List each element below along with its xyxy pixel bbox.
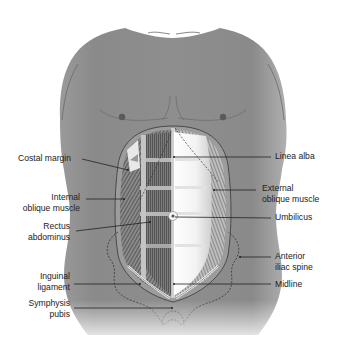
nipple-right xyxy=(220,114,226,120)
label-line: Symphysis xyxy=(28,298,70,309)
nipple-left xyxy=(119,114,125,120)
label-umbilicus: Umbilicus xyxy=(275,212,312,223)
label-inguinal-ligament: Inguinal ligament xyxy=(38,271,70,293)
label-line: Inguinal xyxy=(38,271,70,282)
label-line: Midline xyxy=(275,279,302,290)
label-midline: Midline xyxy=(275,279,302,290)
label-line: Costal margin xyxy=(18,153,71,164)
torso-illustration xyxy=(0,0,344,346)
label-line: Rectus xyxy=(28,221,70,232)
label-line: oblique muscle xyxy=(23,203,80,214)
label-line: Internal xyxy=(23,192,80,203)
label-line: abdominus xyxy=(28,232,70,243)
label-line: iliac spine xyxy=(275,262,313,273)
abdominal-anatomy-figure: Costal margin Internal oblique muscle Re… xyxy=(0,0,344,346)
label-internal-oblique-muscle: Internal oblique muscle xyxy=(23,192,80,214)
label-line: Anterior xyxy=(275,251,313,262)
label-external-oblique-muscle: External oblique muscle xyxy=(262,183,319,205)
label-line: Linea alba xyxy=(275,151,315,162)
label-symphysis-pubis: Symphysis pubis xyxy=(28,298,70,320)
label-costal-margin: Costal margin xyxy=(18,153,71,164)
label-rectus-abdominus: Rectus abdominus xyxy=(28,221,70,243)
label-line: ligament xyxy=(38,282,70,293)
label-line: oblique muscle xyxy=(262,194,319,205)
label-line: pubis xyxy=(28,309,70,320)
label-linea-alba: Linea alba xyxy=(275,151,315,162)
label-line: Umbilicus xyxy=(275,212,312,223)
label-anterior-iliac-spine: Anterior iliac spine xyxy=(275,251,313,273)
label-line: External xyxy=(262,183,319,194)
